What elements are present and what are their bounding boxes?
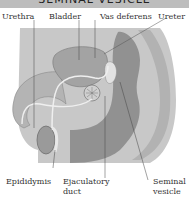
label-urethra: Urethra [2,12,34,21]
label-vas-deferens: Vas deferens [100,12,152,21]
label-seminal-vesicle-line2: vesicle [153,187,181,196]
label-ureter: Ureter [158,12,185,21]
label-epididymis: Epididymis [6,177,51,186]
testis [37,126,55,154]
label-ejaculatory-duct-line1: Ejaculatory [63,177,109,186]
label-seminal-vesicle-line1: Seminal [153,177,186,186]
label-ejaculatory-duct-line2: duct [63,187,81,196]
label-bladder: Bladder [49,12,81,21]
anatomy-illustration [0,0,189,199]
